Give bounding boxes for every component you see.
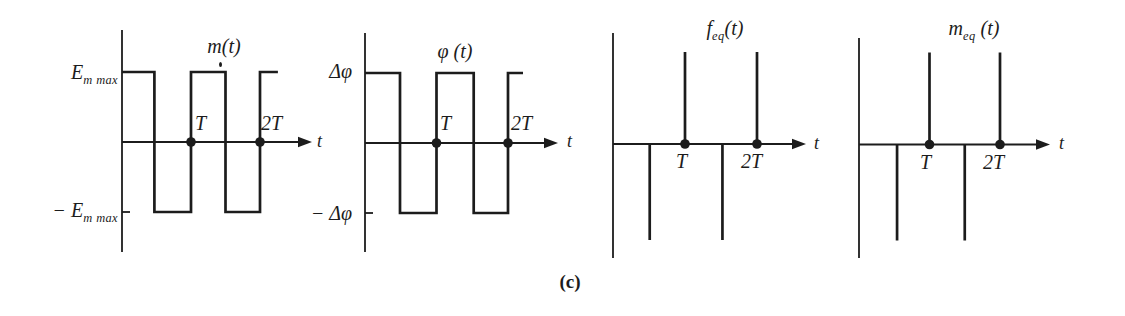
m-plot-tick-2T: 2T bbox=[261, 112, 282, 135]
feq-plot-t-axis-label: t bbox=[814, 133, 819, 154]
phi-plot-t-axis-label: t bbox=[567, 131, 572, 152]
phi-plot-high-level-label: Δφ bbox=[300, 60, 352, 86]
m-plot-axis-sample-dot bbox=[186, 137, 196, 147]
m-plot-high-level-label: Em max bbox=[28, 61, 118, 87]
phi-plot-tick-T: T bbox=[440, 112, 451, 135]
figure-svg bbox=[0, 0, 1125, 316]
meq-plot-t-axis-label: t bbox=[1059, 133, 1064, 154]
feq-plot-tick-T: T bbox=[676, 150, 687, 173]
m-plot-tick-T: T bbox=[195, 112, 206, 135]
figure: m(t) Em max − Em max T 2T t φ (t) Δφ − Δ… bbox=[0, 0, 1125, 316]
phi-plot-t-axis-arrowhead bbox=[544, 138, 558, 148]
meq-plot-tick-2T: 2T bbox=[983, 151, 1004, 174]
m-plot-t-axis-label: t bbox=[317, 131, 322, 152]
phi-plot-tick-2T: 2T bbox=[511, 112, 532, 135]
feq-plot-t-axis-arrowhead bbox=[792, 139, 806, 149]
meq-plot-t-axis-arrowhead bbox=[1036, 139, 1050, 149]
feq-plot-title: feq(t) bbox=[685, 17, 765, 43]
meq-plot-title: meq (t) bbox=[932, 17, 1016, 43]
phi-plot-low-level-label: − Δφ bbox=[286, 202, 352, 228]
meq-plot-axis-sample-dot bbox=[995, 140, 1005, 150]
figure-caption: (c) bbox=[538, 271, 602, 293]
feq-plot-axis-sample-dot bbox=[680, 139, 690, 149]
feq-plot-tick-2T: 2T bbox=[741, 150, 762, 173]
feq-plot-axis-sample-dot bbox=[752, 139, 762, 149]
meq-plot-axis-sample-dot bbox=[925, 140, 935, 150]
phi-plot-title: φ (t) bbox=[420, 40, 490, 66]
m-plot-low-level-label: − Em max bbox=[16, 199, 118, 225]
ink-speck-artifact bbox=[219, 62, 222, 67]
phi-plot-axis-sample-dot bbox=[503, 138, 513, 148]
m-plot-t-axis-arrowhead bbox=[298, 137, 312, 147]
phi-plot-axis-sample-dot bbox=[432, 138, 442, 148]
m-plot-title: m(t) bbox=[186, 35, 262, 61]
meq-plot-tick-T: T bbox=[920, 151, 931, 174]
m-plot-axis-sample-dot bbox=[255, 137, 265, 147]
